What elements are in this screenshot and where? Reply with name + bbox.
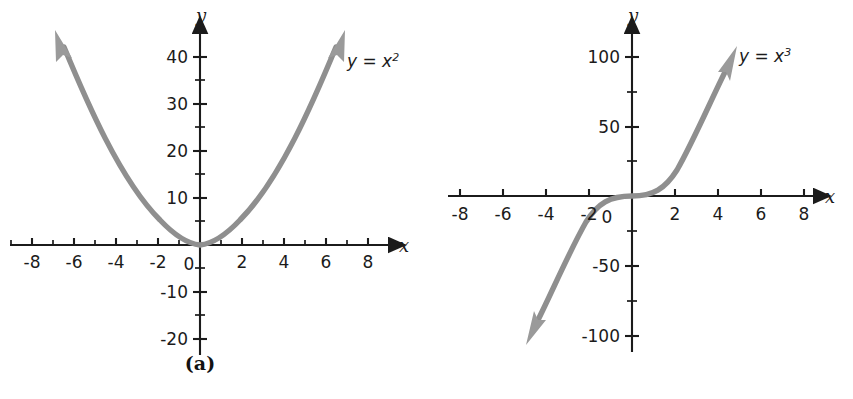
panel-a-parabola: -8 -6 -4 -2 0 2 4 6 8 40 30 20 10 -10 -2…	[0, 0, 430, 399]
curve-label-b-text: y = x	[738, 46, 785, 66]
curve-label-a: y = x2	[346, 51, 399, 71]
x-tick-label-b-5: 2	[670, 204, 681, 224]
y-tick-label-b-100: 100	[588, 47, 620, 67]
x-tick-label-b-2: -4	[538, 204, 555, 224]
x-tick-label-b-3: -2	[581, 204, 598, 224]
x-axis-name-a: x	[399, 235, 409, 256]
caption-a: (a)	[170, 352, 230, 374]
x-tick-label-a-7: 6	[321, 252, 332, 272]
y-axis-a	[193, 32, 207, 355]
x-tick-label-a-1: -6	[66, 252, 83, 272]
figure-two-power-functions: -8 -6 -4 -2 0 2 4 6 8 40 30 20 10 -10 -2…	[0, 0, 853, 399]
y-tick-label-a-neg10: -10	[160, 282, 188, 302]
y-tick-label-a-10: 10	[166, 188, 188, 208]
x-tick-label-b-8: 8	[799, 204, 810, 224]
panel-b-cubic: -8 -6 -4 -2 0 2 4 6 8 100 50 -50 -100 x …	[430, 0, 853, 399]
y-tick-label-a-40: 40	[166, 47, 188, 67]
curve-label-a-exponent: 2	[392, 51, 399, 64]
x-tick-label-b-6: 4	[713, 204, 724, 224]
curve-label-a-text: y = x	[346, 51, 393, 71]
y-axis-name-b: y	[627, 5, 639, 26]
plot-b-svg: -8 -6 -4 -2 0 2 4 6 8 100 50 -50 -100 x …	[430, 0, 853, 399]
y-tick-label-b-neg50: -50	[592, 256, 620, 276]
x-tick-label-a-origin: 0	[184, 254, 195, 274]
curve-label-b-exponent: 3	[784, 46, 791, 59]
plot-a-svg: -8 -6 -4 -2 0 2 4 6 8 40 30 20 10 -10 -2…	[0, 0, 430, 399]
x-tick-label-a-8: 8	[363, 252, 374, 272]
x-tick-label-b-7: 6	[756, 204, 767, 224]
curve-arrowhead-left-b	[526, 311, 546, 345]
y-axis-name-a: y	[195, 5, 207, 26]
x-tick-label-b-origin: 0	[602, 207, 613, 227]
x-tick-label-a-3: -2	[150, 252, 167, 272]
x-tick-label-a-5: 2	[237, 252, 248, 272]
y-tick-label-a-20: 20	[166, 141, 188, 161]
y-tick-label-b-50: 50	[598, 117, 620, 137]
y-tick-label-a-30: 30	[166, 94, 188, 114]
x-tick-label-b-1: -6	[495, 204, 512, 224]
x-tick-label-b-0: -8	[452, 204, 469, 224]
curve-label-b: y = x3	[738, 46, 791, 66]
x-tick-label-a-0: -8	[24, 252, 41, 272]
y-axis-b	[625, 32, 639, 352]
y-tick-label-a-neg20: -20	[160, 329, 188, 349]
y-tick-label-b-neg100: -100	[581, 326, 620, 346]
x-axis-name-b: x	[825, 186, 835, 207]
x-tick-label-a-6: 4	[279, 252, 290, 272]
x-tick-label-a-2: -4	[108, 252, 125, 272]
